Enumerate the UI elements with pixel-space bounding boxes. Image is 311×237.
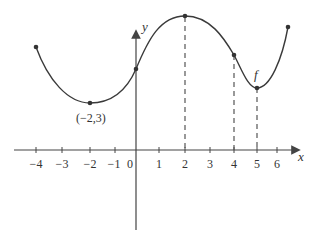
tick-label: −4 (30, 157, 43, 171)
tick-label: 0 (127, 157, 133, 171)
tick-label: 2 (182, 157, 188, 171)
tick-label: 6 (274, 157, 280, 171)
x4-point-dot (232, 53, 237, 58)
tick-label: 1 (156, 157, 162, 171)
function-label: f (254, 67, 260, 82)
y-axis-label: y (140, 19, 148, 34)
min-point-dot (88, 101, 93, 106)
x-axis-label: x (297, 149, 304, 164)
tick-label: 5 (254, 157, 260, 171)
min-point-label: (−2,3) (76, 111, 106, 125)
tick-label: 3 (207, 157, 213, 171)
tick-label: 4 (231, 157, 237, 171)
function-graph: −4 −3 −2 −1 0 1 2 3 4 5 6 x y (0, 0, 311, 237)
x-tick-labels: −4 −3 −2 −1 0 1 2 3 4 5 6 (30, 157, 280, 171)
left-endpoint-dot (34, 45, 39, 50)
graph-canvas: −4 −3 −2 −1 0 1 2 3 4 5 6 x y (0, 0, 311, 237)
key-points (34, 14, 291, 106)
function-curve (36, 16, 288, 103)
dashed-guides (185, 17, 257, 150)
max-point-dot (183, 14, 188, 19)
tick-label: −2 (84, 157, 97, 171)
y-intercept-dot (134, 67, 139, 72)
tick-label: −3 (56, 157, 69, 171)
tick-label: −1 (108, 157, 121, 171)
right-endpoint-dot (286, 25, 291, 30)
x5-min-dot (255, 86, 260, 91)
